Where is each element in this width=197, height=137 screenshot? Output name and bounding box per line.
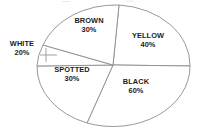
pie-label-brown-percent: 30% <box>66 26 112 35</box>
pie-label-white: WHITE 20% <box>1 40 43 57</box>
pie-label-spotted: SPOTTED 30% <box>44 66 100 83</box>
pie-label-brown: BROWN 30% <box>66 17 112 34</box>
pie-label-yellow: YELLOW 40% <box>124 32 172 49</box>
pie-chart-figure: BROWN 30% YELLOW 40% WHITE 20% SPOTTED 3… <box>0 0 197 137</box>
pie-label-black: BLACK 60% <box>112 78 160 95</box>
pie-label-white-percent: 20% <box>1 49 43 58</box>
pie-label-spotted-percent: 30% <box>44 75 100 84</box>
pie-label-yellow-percent: 40% <box>124 41 172 50</box>
pie-label-black-percent: 60% <box>112 87 160 96</box>
